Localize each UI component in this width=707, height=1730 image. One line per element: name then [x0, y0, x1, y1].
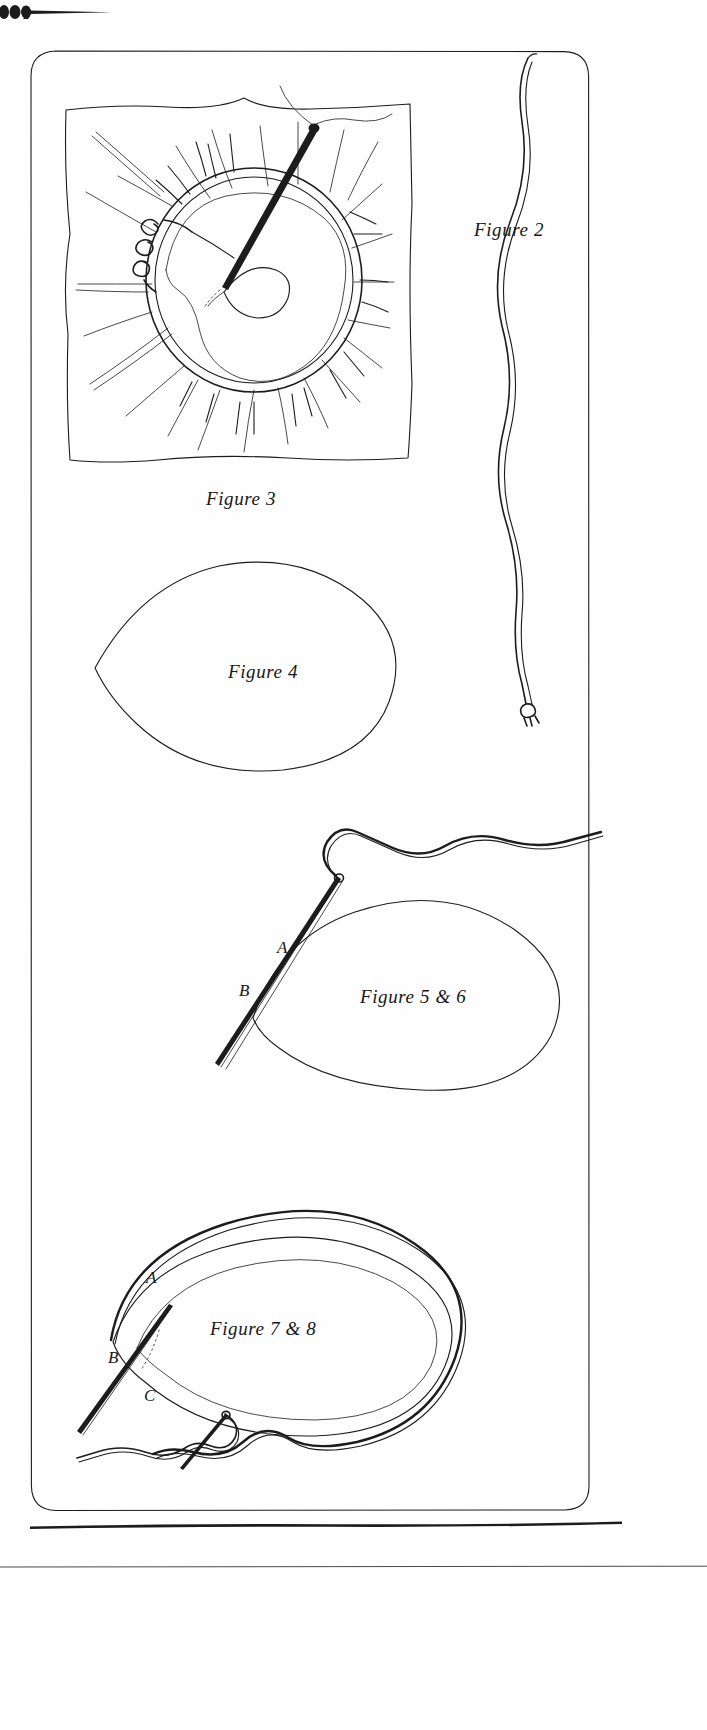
point-label-b-figure-7-8: B — [108, 1348, 118, 1368]
point-label-b-figure-5-6: B — [239, 981, 249, 1001]
figure-3-illustration — [48, 84, 428, 474]
point-label-a-figure-7-8: A — [146, 1268, 156, 1288]
bottom-heavy-rule — [30, 1516, 622, 1526]
point-label-a-figure-5-6: A — [277, 938, 287, 958]
figure-7-8-caption: Figure 7 & 8 — [210, 1318, 316, 1340]
figure-5-6-caption: Figure 5 & 6 — [360, 986, 466, 1008]
point-label-c-figure-7-8: C — [144, 1386, 155, 1406]
figure-7-8-illustration — [75, 1152, 545, 1472]
footer-rule — [0, 1556, 707, 1562]
figure-2-caption: Figure 2 — [474, 219, 544, 241]
figure-3-caption: Figure 3 — [206, 488, 276, 510]
typographic-flourish-ornament — [0, 2, 130, 28]
figure-2-illustration — [480, 52, 595, 722]
scanned-page: Figure 2 Figure 3 Figure 4 Figure 5 & 6 … — [0, 0, 707, 1730]
figure-4-caption: Figure 4 — [228, 661, 298, 683]
figure-5-6-illustration — [205, 818, 605, 1088]
